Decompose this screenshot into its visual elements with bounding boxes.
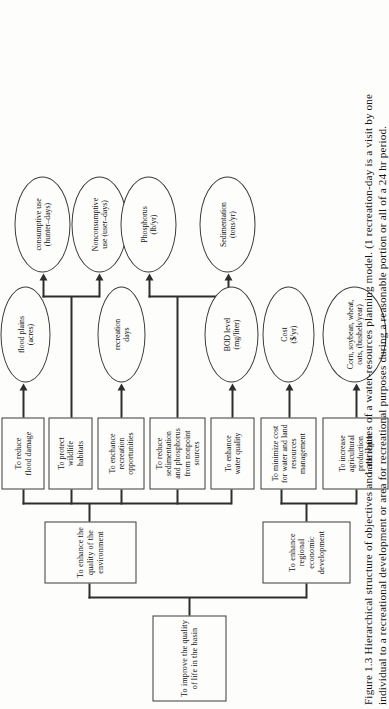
node-cost[interactable]: To minimize cost for water and land reso…	[260, 417, 316, 489]
figure-caption: Figure 1.3 Hierarchical structure of obj…	[349, 0, 389, 709]
edge-root-out	[188, 597, 190, 615]
attribute-consumptive-use-label: consumptive use (hunter–days)	[33, 198, 51, 250]
node-econ-label: To enhance regional economic development	[287, 522, 326, 582]
edge-wildlife-to-consumptive	[42, 279, 44, 297]
node-env[interactable]: To enhance the quality of the environmen…	[44, 521, 136, 583]
attribute-cost[interactable]: Cost ($/yr)	[262, 286, 314, 382]
arrowhead-recdays	[117, 383, 125, 390]
arrowhead-bod	[228, 383, 236, 390]
attribute-nonconsumptive-use[interactable]: Nonconsumptive use (user–days)	[71, 176, 127, 272]
node-flood-label: To reduce flood damage	[13, 429, 31, 477]
edge-root-bus	[88, 596, 306, 598]
arrowhead-nonconsumptive	[95, 273, 103, 280]
node-flood[interactable]: To reduce flood damage	[1, 417, 44, 489]
arrowhead-floodplains	[19, 383, 27, 390]
edge-rec-to-recdays	[120, 389, 122, 417]
node-recreation[interactable]: To enchance recreation opportunities	[97, 417, 144, 489]
arrowhead-phosphorus	[145, 273, 153, 280]
attribute-flood-plains[interactable]: flood plains (acres)	[0, 286, 50, 382]
attribute-recreation-days-label: recreation days	[112, 318, 130, 349]
edge-wildlife-bus	[42, 295, 99, 297]
attribute-sedimentation[interactable]: Sedimentation (tons/yr)	[199, 176, 255, 272]
attribute-phosphorus-label: Phosphorus (lb/yr)	[139, 206, 157, 242]
attribute-recreation-days[interactable]: recreation days	[97, 286, 145, 382]
attribute-flood-plains-label: flood plains (acres)	[16, 315, 34, 352]
arrowhead-cost	[285, 383, 293, 390]
edge-cost-to-costattr	[288, 389, 290, 417]
attribute-nonconsumptive-use-label: Nonconsumptive use (user–days)	[90, 197, 108, 250]
edge-water-to-bod	[231, 389, 233, 417]
attribute-cost-label: Cost ($/yr)	[279, 325, 297, 343]
edge-env-bus	[22, 502, 231, 504]
node-root[interactable]: To improve the quality of life in the ba…	[152, 615, 226, 701]
arrowhead-consumptive	[39, 273, 47, 280]
edge-flood-to-floodplains	[22, 389, 24, 417]
node-water-quality-label: To enhance water quality	[223, 430, 241, 476]
node-water-quality[interactable]: To enhance water quality	[210, 417, 254, 489]
arrowhead-sedimentation	[224, 273, 232, 280]
edge-env-to-flood	[22, 488, 24, 504]
attribute-sedimentation-label: Sedimentation (tons/yr)	[218, 201, 236, 246]
attribute-bod-level[interactable]: BOD level (mg/liter)	[204, 286, 258, 382]
edge-env-to-water	[230, 488, 232, 504]
edge-root-to-econ	[305, 582, 307, 598]
edge-env-to-rec	[120, 488, 122, 504]
node-wildlife-label: To protect wildlife habitats	[56, 435, 84, 472]
node-root-label: To improve the quality of life in the ba…	[179, 616, 198, 700]
edge-root-to-env	[88, 582, 90, 598]
edge-wildlife-out	[70, 296, 72, 417]
edge-wildlife-to-nonconsumptive	[98, 279, 100, 297]
node-cost-label: To minimize cost for water and land reso…	[270, 418, 307, 488]
edge-env-out	[88, 503, 90, 521]
attribute-phosphorus[interactable]: Phosphorus (lb/yr)	[120, 176, 176, 272]
node-sedimentation-label: To reduce sedimentation and phosphorus f…	[154, 426, 200, 481]
edge-env-to-wildlife	[70, 488, 72, 504]
edge-econ-to-cost	[280, 488, 282, 504]
node-recreation-label: To enchance recreation opportunities	[107, 430, 135, 476]
node-sedimentation[interactable]: To reduce sedimentation and phosphorus f…	[149, 417, 205, 489]
node-wildlife[interactable]: To protect wildlife habitats	[48, 417, 92, 489]
figure-caption-line-1: Figure 1.3 Hierarchical structure of obj…	[362, 94, 374, 705]
edge-sedim-out	[176, 296, 178, 417]
attribute-consumptive-use[interactable]: consumptive use (hunter–days)	[14, 176, 70, 272]
figure-diagram: To improve the quality of life in the ba…	[0, 0, 389, 709]
attribute-bod-level-label: BOD level (mg/liter)	[222, 317, 240, 351]
edge-econ-bus	[280, 502, 356, 504]
edge-econ-out	[305, 503, 307, 521]
node-env-label: To enhance the quality of the environmen…	[75, 522, 104, 582]
edge-sedim-to-phosphorus	[148, 279, 150, 297]
figure-caption-line-2: individual to a recreational development…	[376, 126, 388, 705]
edge-env-to-sedim	[176, 488, 178, 504]
node-econ[interactable]: To enhance regional economic development	[262, 521, 350, 583]
